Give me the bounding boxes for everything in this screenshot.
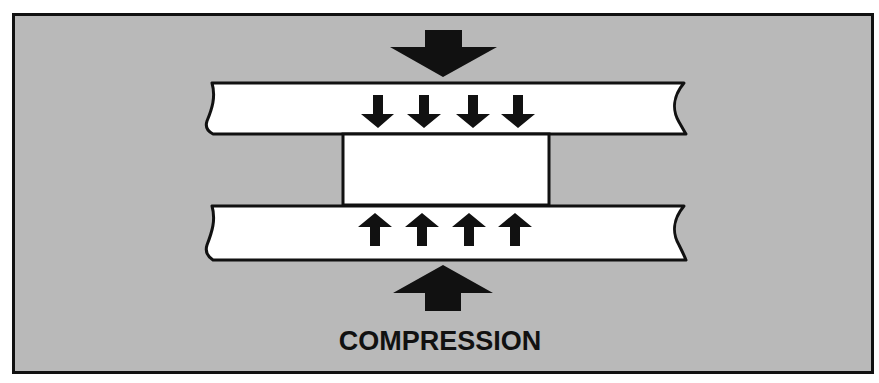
specimen-block <box>343 134 549 205</box>
top-plate <box>206 83 686 134</box>
compression-diagram: COMPRESSION <box>0 0 879 383</box>
bottom-plate <box>206 206 686 260</box>
diagram-title: COMPRESSION <box>339 326 542 356</box>
